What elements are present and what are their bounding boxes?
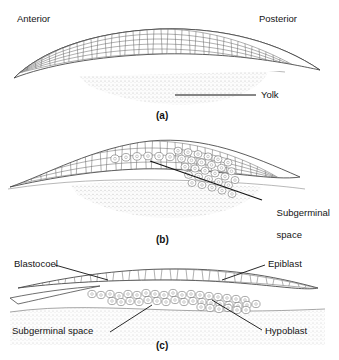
figure-root: Anterior Posterior Yolk (a) S	[0, 0, 339, 360]
epiblast-left-fold	[10, 286, 100, 304]
label-yolk: Yolk	[261, 89, 279, 100]
yolk-mass	[70, 182, 262, 218]
label-anterior: Anterior	[17, 13, 50, 24]
label-subgerminal-space-b: Subgerminal space	[266, 196, 330, 251]
label-subgerminal-space-line1: Subgerminal	[277, 207, 330, 218]
caption-panel-b: (b)	[156, 234, 169, 245]
label-subgerminal-space-line2: space	[277, 229, 302, 240]
label-hypoblast: Hypoblast	[265, 325, 307, 336]
label-epiblast: Epiblast	[268, 258, 302, 269]
label-subgerminal-space-c: Subgerminal space	[12, 325, 93, 336]
label-posterior: Posterior	[259, 13, 297, 24]
label-blastocoel: Blastocoel	[14, 258, 58, 269]
caption-panel-a: (a)	[156, 110, 168, 121]
caption-panel-c: (c)	[156, 340, 168, 351]
